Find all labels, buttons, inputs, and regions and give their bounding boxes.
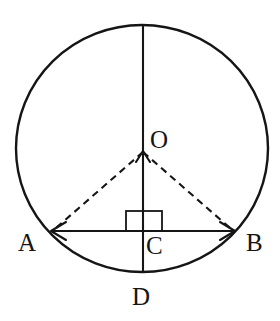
radius-oa-dashed-line [56, 152, 143, 228]
geometry-diagram: O A B C D [0, 0, 280, 321]
point-label-a: A [18, 229, 36, 256]
point-label-c: C [146, 232, 163, 259]
circle-geometry-figure: O A B C D [0, 0, 280, 321]
point-label-d: D [132, 283, 150, 310]
point-label-o: O [150, 126, 168, 153]
point-label-b: B [246, 229, 263, 256]
radius-ob-dashed-line [143, 152, 230, 228]
